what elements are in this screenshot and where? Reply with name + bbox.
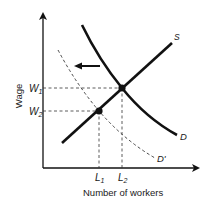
tick-l2: L2 bbox=[118, 172, 128, 184]
tick-w2: W2 bbox=[29, 106, 42, 118]
label-supply: S bbox=[174, 32, 180, 42]
labor-market-chart: Wage W1 W2 L1 L2 Number of workers S D D… bbox=[0, 0, 209, 200]
x-axis-label: Number of workers bbox=[83, 187, 163, 198]
equilibrium-point-initial bbox=[118, 84, 125, 91]
tick-w1: W1 bbox=[29, 83, 42, 95]
y-axis-label: Wage bbox=[13, 84, 24, 108]
shift-left-arrow-icon bbox=[74, 63, 100, 70]
supply-curve bbox=[62, 43, 172, 143]
label-demand: D bbox=[180, 131, 187, 142]
label-demand-shifted: D' bbox=[157, 153, 167, 164]
equilibrium-point-new bbox=[95, 107, 102, 114]
tick-l1: L1 bbox=[95, 172, 105, 184]
